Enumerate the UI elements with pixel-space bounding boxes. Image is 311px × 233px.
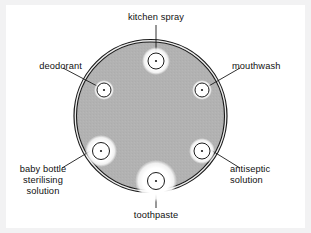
label-antiseptic-line-2: solution <box>230 175 310 186</box>
label-baby-bottle-line-1: baby bottle <box>2 164 84 175</box>
label-antiseptic-line-1: antiseptic <box>230 164 310 175</box>
figure-page: kitchen spray deodorant mouthwash baby b… <box>0 0 311 233</box>
disc-mouthwash <box>192 80 212 100</box>
disc-center-dot-antiseptic-solution <box>201 150 203 152</box>
label-antiseptic-solution: antiseptic solution <box>230 164 310 186</box>
disc-center-dot-deodorant <box>103 89 105 91</box>
disc-baby-bottle-sterilising-solution <box>85 135 117 167</box>
disc-center-dot-kitchen-spray <box>155 60 157 62</box>
disc-toothpaste <box>135 160 177 202</box>
disc-center-dot-mouthwash <box>201 89 203 91</box>
disc-deodorant <box>94 80 114 100</box>
disc-kitchen-spray <box>142 47 170 75</box>
label-kitchen-spray: kitchen spray <box>106 12 206 23</box>
label-baby-bottle-line-2: sterilising <box>2 175 84 186</box>
disc-center-dot-toothpaste <box>155 180 157 182</box>
disc-antiseptic-solution <box>189 138 215 164</box>
label-baby-bottle-sterilising-solution: baby bottle sterilising solution <box>2 164 84 198</box>
label-mouthwash: mouthwash <box>232 61 310 72</box>
label-deodorant: deodorant <box>2 61 82 72</box>
agar-plate-diagram <box>0 0 311 233</box>
label-toothpaste: toothpaste <box>106 210 206 221</box>
disc-center-dot-baby-bottle-sterilising-solution <box>100 150 102 152</box>
label-baby-bottle-line-3: solution <box>2 186 84 197</box>
